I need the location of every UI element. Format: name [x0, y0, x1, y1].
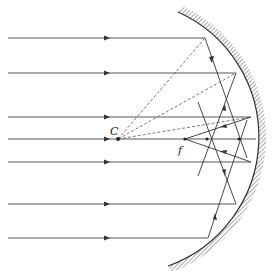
- focus-point: [183, 137, 186, 140]
- axis-crossing-point: [205, 137, 208, 140]
- concave-mirror-diagram: C f: [0, 0, 274, 279]
- center-label: C: [110, 125, 119, 138]
- arrow-icons: [104, 36, 110, 241]
- axis-crossing-point: [237, 137, 240, 140]
- focus-label: f: [177, 144, 184, 157]
- incident-rays: [8, 38, 256, 238]
